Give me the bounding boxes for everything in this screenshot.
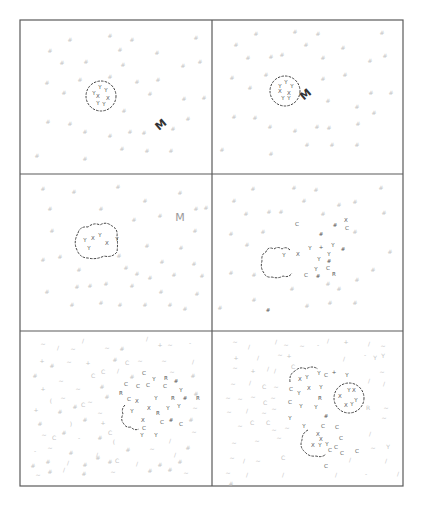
- svg-text:C: C: [263, 399, 267, 406]
- released-fragments: C#XC # Y+Y# YY# YCR C# #: [266, 217, 349, 313]
- svg-text:#: #: [107, 458, 112, 465]
- svg-text:#: #: [316, 273, 321, 279]
- svg-text:~: ~: [273, 383, 278, 390]
- svg-text:X: X: [135, 398, 139, 404]
- svg-text:X: X: [278, 88, 282, 94]
- panel-3: #### ### #### ## ## ### #### #### ######…: [40, 183, 208, 312]
- svg-text:#: #: [303, 41, 308, 48]
- svg-text:#: #: [193, 205, 198, 212]
- svg-text:#: #: [69, 301, 74, 308]
- svg-text:X: X: [298, 376, 302, 382]
- svg-text:C: C: [266, 419, 270, 426]
- svg-text:-: -: [34, 447, 36, 454]
- svg-text:#: #: [181, 95, 186, 102]
- svg-text:#: #: [34, 152, 39, 159]
- svg-text:#: #: [144, 147, 149, 154]
- svg-text:#: #: [291, 184, 296, 191]
- svg-text:#: #: [336, 201, 341, 208]
- svg-text:C: C: [179, 421, 183, 427]
- svg-text:#: #: [341, 246, 346, 252]
- svg-text:/: /: [383, 380, 386, 387]
- svg-text:Y: Y: [304, 374, 309, 380]
- svg-text:Y: Y: [316, 256, 321, 262]
- svg-text:#: #: [168, 147, 173, 154]
- svg-text:#: #: [171, 271, 176, 278]
- panel-2: #### ### ###### #### ### ### ####### ###…: [219, 28, 393, 157]
- svg-text:/: /: [368, 377, 371, 384]
- svg-text:C: C: [324, 463, 328, 469]
- svg-text:#: #: [192, 227, 197, 234]
- svg-text:#: #: [98, 205, 103, 212]
- svg-text:+: +: [33, 406, 38, 413]
- svg-text:~: ~: [40, 340, 45, 347]
- svg-text:R: R: [196, 395, 200, 401]
- svg-text:Y: Y: [97, 232, 102, 238]
- panel-6: ~//~~-/+/~ +/~+/-YY ~+//C~ ~/C~// ~~~C~R…: [225, 337, 400, 487]
- svg-text:C: C: [163, 383, 167, 389]
- svg-text:Y: Y: [139, 432, 144, 438]
- svg-text:C: C: [295, 221, 299, 227]
- svg-text:/: /: [57, 344, 60, 351]
- svg-text:Y: Y: [82, 237, 87, 243]
- svg-text:#: #: [83, 58, 88, 65]
- svg-text:#: #: [44, 288, 49, 295]
- svg-text:~: ~: [47, 444, 52, 451]
- svg-text:#: #: [129, 36, 134, 43]
- svg-text:R: R: [318, 395, 322, 401]
- svg-text:#: #: [193, 34, 198, 41]
- svg-text:~: ~: [87, 398, 92, 405]
- svg-text:#: #: [381, 209, 386, 216]
- svg-text:R: R: [332, 271, 336, 277]
- svg-text:#: #: [278, 208, 283, 215]
- panel-grid-frame: [20, 20, 403, 486]
- svg-text:#: #: [301, 197, 306, 204]
- svg-text:#: #: [76, 266, 81, 273]
- svg-text:~: ~: [254, 437, 259, 444]
- svg-text:#: #: [279, 51, 284, 58]
- svg-text:C: C: [136, 383, 140, 389]
- svg-text:C: C: [291, 363, 295, 370]
- svg-text:Y: Y: [129, 408, 134, 414]
- svg-text:#: #: [119, 345, 124, 352]
- svg-text:C: C: [281, 454, 285, 461]
- svg-text:+: +: [343, 338, 348, 345]
- surface-receptors: YXXYXY: [338, 387, 358, 408]
- svg-text:/: /: [275, 338, 278, 345]
- svg-text:#: #: [387, 248, 392, 255]
- svg-text:~: ~: [226, 408, 231, 415]
- svg-text:~: ~: [35, 471, 40, 478]
- svg-text:~: ~: [97, 409, 102, 416]
- svg-text:/: /: [282, 471, 285, 478]
- svg-text:C: C: [81, 401, 85, 408]
- svg-text:#: #: [81, 470, 86, 477]
- svg-text:#: #: [304, 141, 309, 148]
- svg-text:X: X: [105, 240, 109, 246]
- svg-text:#: #: [327, 299, 332, 306]
- svg-text:~: ~: [169, 368, 174, 375]
- svg-text:#: #: [177, 458, 182, 465]
- svg-text:C: C: [324, 372, 328, 378]
- svg-text:#: #: [47, 47, 52, 54]
- svg-text:X: X: [147, 405, 151, 411]
- svg-text:+: +: [85, 359, 90, 366]
- svg-text:~: ~: [250, 393, 255, 400]
- svg-text:Y: Y: [165, 405, 170, 411]
- surface-receptors: YYYX XYY: [91, 84, 110, 107]
- svg-text:#: #: [326, 124, 331, 131]
- svg-text:#: #: [327, 258, 332, 264]
- svg-text:#: #: [112, 356, 117, 363]
- svg-text:C: C: [345, 225, 349, 231]
- svg-text:~: ~: [370, 444, 375, 451]
- svg-text:Y: Y: [296, 390, 301, 396]
- svg-text:#: #: [352, 299, 357, 306]
- svg-text:Y: Y: [283, 79, 288, 85]
- svg-text:~: ~: [271, 405, 276, 412]
- svg-text:~: ~: [161, 357, 166, 364]
- svg-text:/: /: [136, 460, 139, 467]
- svg-text:Y: Y: [307, 245, 312, 251]
- svg-text:#: #: [57, 253, 62, 260]
- svg-text:#: #: [174, 378, 179, 384]
- svg-text:Y: Y: [95, 100, 100, 106]
- svg-text:+: +: [286, 352, 291, 359]
- svg-text:#: #: [188, 416, 193, 423]
